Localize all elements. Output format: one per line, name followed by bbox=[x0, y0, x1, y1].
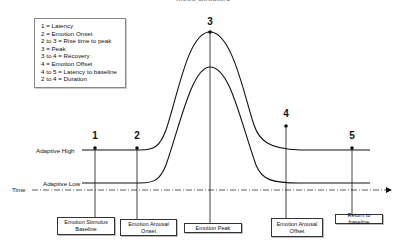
marker-dot-2 bbox=[135, 146, 139, 150]
marker-number-2: 2 bbox=[134, 130, 140, 141]
adaptive-low-curve bbox=[82, 67, 370, 183]
marker-dot-5 bbox=[350, 146, 354, 150]
marker-dot-4 bbox=[284, 124, 288, 128]
marker-number-4: 4 bbox=[283, 108, 289, 119]
label-box-emotion-arousal-onset: Emotion Arousal Onset bbox=[120, 219, 177, 236]
time-label: Time bbox=[12, 186, 26, 193]
marker-number-5: 5 bbox=[349, 130, 355, 141]
marker-dot-1 bbox=[93, 146, 97, 150]
adaptive-high-curve bbox=[82, 32, 370, 150]
marker-dot-3 bbox=[208, 30, 212, 34]
marker-number-1: 1 bbox=[92, 130, 98, 141]
adaptive-low-label: Adaptive Low bbox=[43, 180, 80, 187]
label-box-emotion-stimulus-baseline: Emotion Stimulus Baseline bbox=[57, 217, 115, 235]
label-box-return-to-baseline: Return to baseline bbox=[335, 214, 383, 224]
label-box-emotion-arousal-offset: Emotion Arousal Offset bbox=[271, 218, 323, 237]
label-box-emotion-peak: Emotion Peak bbox=[184, 223, 242, 233]
marker-number-3: 3 bbox=[207, 16, 213, 27]
time-axis-arrow-icon bbox=[386, 187, 392, 193]
adaptive-high-label: Adaptive High bbox=[36, 147, 75, 154]
